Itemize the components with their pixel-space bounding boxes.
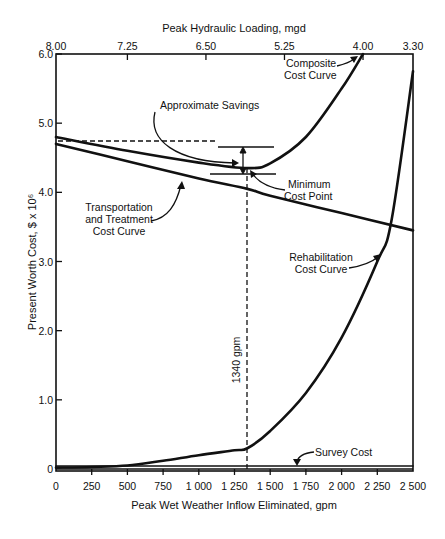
survey-label: Survey Cost xyxy=(315,446,372,458)
y-tick-label: 3.0 xyxy=(38,256,53,268)
rehab-leader xyxy=(349,257,378,268)
x-tick-label: 1 750 xyxy=(293,480,319,492)
plot-frame xyxy=(56,54,413,471)
composite-leader xyxy=(337,59,354,66)
savings-arrow-up-icon xyxy=(240,147,246,153)
savings-arrow-down-icon xyxy=(240,168,246,174)
y-tick-label: 2.0 xyxy=(38,325,53,337)
top-x-tick-label: 7.25 xyxy=(117,40,138,52)
top-x-tick-label: 8.00 xyxy=(46,40,67,52)
x-tick-label: 1 250 xyxy=(221,480,247,492)
top-axis-title: Peak Hydraulic Loading, mgd xyxy=(162,22,306,34)
composite-label-line1: Composite xyxy=(286,57,336,69)
mincost-leader-arrow-icon xyxy=(250,170,257,178)
transport-leader-arrow-icon xyxy=(177,181,185,189)
x-tick-label: 2 000 xyxy=(328,480,354,492)
x-tick-label: 0 xyxy=(53,480,59,492)
annotations: Composite Cost Curve Approximate Savings… xyxy=(85,57,372,458)
rehab-label-line2: Cost Curve xyxy=(295,263,348,275)
top-x-tick-label: 3.30 xyxy=(403,40,424,52)
top-x-tick-label: 6.50 xyxy=(196,40,217,52)
cost-chart: Peak Hydraulic Loading, mgd Peak Wet Wea… xyxy=(0,0,445,539)
y-tick-label: 1.0 xyxy=(38,394,53,406)
x-tick-label: 2 500 xyxy=(400,480,426,492)
mincost-label-line1: Minimum xyxy=(288,178,331,190)
transport-label-line1: Transportation xyxy=(85,201,152,213)
curves xyxy=(56,54,413,468)
survey-leader-arrow-icon xyxy=(293,459,301,466)
y-tick-label: 5.0 xyxy=(38,117,53,129)
bottom-axis-title: Peak Wet Weather Inflow Eliminated, gpm xyxy=(131,499,337,511)
top-x-tick-label: 5.25 xyxy=(274,40,295,52)
mincost-label-line2: Cost Point xyxy=(284,190,333,202)
y-tick-label: 0 xyxy=(47,463,53,475)
x-tick-label: 2 250 xyxy=(364,480,390,492)
savings-label: Approximate Savings xyxy=(160,99,259,111)
y-tick-label: 4.0 xyxy=(38,186,53,198)
savings-leader xyxy=(154,112,235,163)
x-tick-label: 1 500 xyxy=(257,480,283,492)
transport-label-line3: Cost Curve xyxy=(93,225,146,237)
composite-label-line2: Cost Curve xyxy=(284,69,337,81)
y-axis-title: Present Worth Cost, $ x 10⁶ xyxy=(26,194,38,330)
x-tick-label: 250 xyxy=(83,480,101,492)
reference-lines xyxy=(58,141,276,469)
rehabilitation-cost-curve xyxy=(56,71,413,467)
savings-leader-arrow-icon xyxy=(232,159,239,167)
transport-leader xyxy=(151,185,181,221)
x-tick-label: 750 xyxy=(154,480,172,492)
transport-label-line2: and Treatment xyxy=(85,213,153,225)
top-x-tick-label: 4.00 xyxy=(353,40,374,52)
rehab-label-line1: Rehabilitation xyxy=(289,251,353,263)
x-tick-label: 500 xyxy=(119,480,137,492)
mincost-leader xyxy=(252,173,285,190)
gpm-1340-label: 1340 gpm xyxy=(230,336,242,383)
x-tick-label: 1 000 xyxy=(186,480,212,492)
